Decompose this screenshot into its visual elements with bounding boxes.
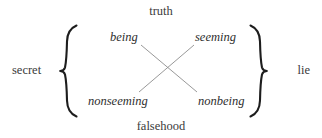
axis-label-falsehood: falsehood bbox=[0, 120, 322, 133]
contradiction-line-being-nonbeing bbox=[141, 45, 197, 92]
axis-label-truth: truth bbox=[0, 5, 322, 18]
contradiction-lines bbox=[0, 0, 322, 138]
axis-label-lie: lie bbox=[298, 64, 311, 77]
term-nonbeing: nonbeing bbox=[198, 95, 245, 108]
axis-label-secret: secret bbox=[12, 64, 41, 77]
term-being: being bbox=[110, 31, 138, 44]
term-nonseeming: nonseeming bbox=[88, 95, 148, 108]
term-seeming: seeming bbox=[195, 31, 236, 44]
semiotic-square-figure: truth secret lie falsehood being seeming… bbox=[0, 0, 322, 138]
right-brace bbox=[243, 24, 269, 118]
contradiction-line-seeming-nonseeming bbox=[139, 45, 194, 92]
left-brace bbox=[58, 24, 84, 118]
